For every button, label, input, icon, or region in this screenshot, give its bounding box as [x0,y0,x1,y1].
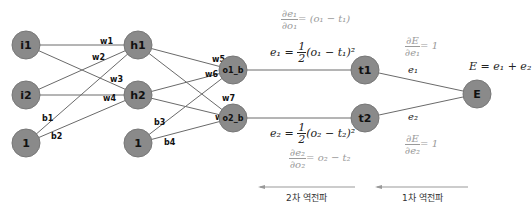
bias-b2: b2 [51,132,62,141]
network-diagram: w1 w2 w3 w4 b1 b2 w5 w6 w7 w8 b3 b4 i1 i… [0,0,532,211]
node-bias-input: 1 [12,129,40,157]
svg-text:h2: h2 [130,89,146,102]
svg-text:o1_b: o1_b [223,66,244,75]
arrow-first-backprop [375,185,468,189]
svg-text:1: 1 [22,137,30,150]
equation-dE-de2: ∂E∂e₂= 1 [405,133,438,156]
equation-e2: e₂ = 12(o₂ − t₂)² [270,122,355,145]
svg-text:E: E [473,88,481,101]
equation-de1-do1: ∂e₁∂o₁= (o₁ − t₁) [281,8,350,31]
node-bias-hidden: 1 [124,129,152,157]
equation-E-definition: E = e₁ + e₂ [469,60,531,73]
svg-text:t2: t2 [359,112,372,125]
node-i1: i1 [12,31,40,59]
node-h1: h1 [124,31,152,59]
node-h2: h2 [124,81,152,109]
equation-de2-do2: ∂e₂∂o₂= o₂ − t₂ [289,147,350,170]
node-o2: o2_b [219,104,247,132]
weight-w4: w4 [103,94,116,103]
bias-b3: b3 [154,118,165,127]
node-E: E [463,80,491,108]
node-i2: i2 [12,81,40,109]
label-first-backprop: 1차 역전파 [402,191,443,204]
svg-text:o2_b: o2_b [223,114,244,123]
weight-w2: w2 [92,53,105,62]
bias-b4: b4 [164,138,176,147]
label-second-backprop: 2차 역전파 [286,191,327,204]
equation-dE-de1: ∂E∂e₁= 1 [405,35,438,58]
node-o1: o1_b [219,56,247,84]
edge-label-e2: e₂ [408,111,418,122]
svg-text:i2: i2 [20,89,31,102]
bias-b1: b1 [42,114,54,123]
svg-text:i1: i1 [20,39,31,52]
svg-text:t1: t1 [359,64,372,77]
edge-label-e1: e₁ [408,64,418,75]
arrow-second-backprop [258,185,355,189]
weight-w6: w6 [205,70,218,79]
weight-w7: w7 [222,94,235,103]
weight-w1: w1 [100,37,113,46]
equation-e1: e₁ = 12(o₁ − t₁)² [270,41,355,64]
weight-w3: w3 [110,75,123,84]
svg-text:1: 1 [134,137,142,150]
svg-text:h1: h1 [130,39,146,52]
